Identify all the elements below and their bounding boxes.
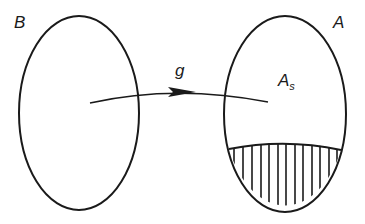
set-b-ellipse — [19, 16, 139, 210]
hatched-region-boundary — [229, 144, 341, 150]
mapping-label-g: g — [175, 61, 185, 80]
subset-as-label: As — [277, 71, 295, 92]
subset-as-sub: s — [289, 80, 295, 92]
subset-as-main: A — [277, 71, 289, 90]
set-a-label: A — [332, 13, 344, 32]
set-a-ellipse — [224, 16, 346, 212]
arrowhead-icon — [168, 87, 196, 97]
set-b-label: B — [14, 13, 25, 32]
set-mapping-diagram: B A As g — [0, 0, 365, 224]
